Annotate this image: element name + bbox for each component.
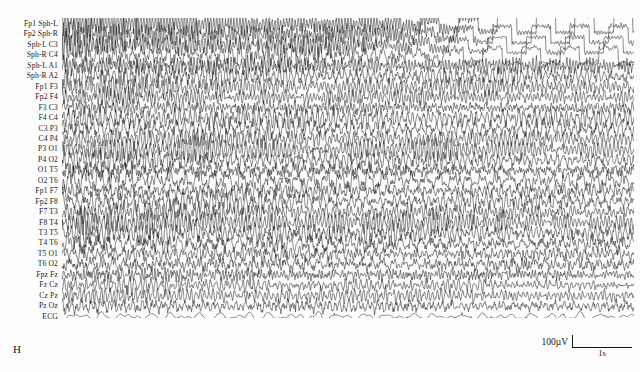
eeg-channel-trace [62,297,634,315]
channel-label: Fp1 F7 [0,187,58,195]
eeg-channel-trace [62,311,634,318]
panel-letter: H [13,343,21,355]
calibration-scale-bar: 100µV 1s [508,334,636,364]
channel-label: Sph-L C3 [0,41,58,49]
channel-label: T4 T6 [0,239,58,247]
channel-label: F8 T4 [0,219,58,227]
channel-label: Cz Pz [0,292,58,300]
eeg-trace-area [62,18,634,318]
channel-label: Sph-R C4 [0,51,58,59]
scale-time-label: 1s [582,348,622,358]
eeg-channel-trace [62,38,634,69]
channel-label: O2 T6 [0,177,58,185]
channel-label: Pz Oz [0,302,58,310]
channel-label-column: Fp1 Sph-LFp2 Sph-RSph-L C3Sph-R C4Sph-L … [0,20,62,312]
eeg-channel-trace [62,243,634,264]
channel-label: O1 T5 [0,166,58,174]
channel-label: Fz Cz [0,281,58,289]
channel-label: T3 T5 [0,229,58,237]
channel-label: T5 O1 [0,250,58,258]
eeg-figure-panel: Fp1 Sph-LFp2 Sph-RSph-L C3Sph-R C4Sph-L … [0,0,640,372]
channel-label: T6 O2 [0,260,58,268]
channel-label: Fp1 F3 [0,83,58,91]
eeg-trace-canvas [62,18,634,318]
adjacent-panel-crop-strip [0,364,640,372]
channel-label: Sph-L A1 [0,62,58,70]
channel-label: Fp2 F8 [0,198,58,206]
channel-label: Fp2 Sph-R [0,30,58,38]
channel-label: Sph-R A2 [0,72,58,80]
channel-label: ECG [0,313,58,321]
channel-label: Fp1 Sph-L [0,20,58,28]
eeg-channel-trace [62,127,634,152]
channel-label: C3 P3 [0,125,58,133]
channel-label: F4 C4 [0,114,58,122]
scale-amplitude-label: 100µV [508,337,568,347]
channel-label: P4 O2 [0,156,58,164]
channel-label: F3 C3 [0,104,58,112]
channel-label: F7 T3 [0,208,58,216]
channel-label: Fp2 F4 [0,93,58,101]
channel-label: C4 P4 [0,135,58,143]
channel-label: Fpz Fz [0,271,58,279]
channel-label: P3 O1 [0,145,58,153]
